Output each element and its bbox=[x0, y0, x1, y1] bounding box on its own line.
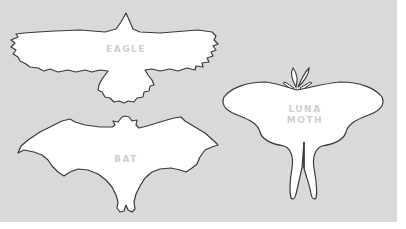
eagle-label: EAGLE bbox=[104, 44, 148, 55]
moth-antenna-left bbox=[292, 68, 297, 87]
luna-moth-label-line2: MOTH bbox=[285, 115, 325, 126]
luna-moth-silhouette bbox=[223, 82, 383, 199]
diagram-canvas: EAGLE BAT LUNA MOTH bbox=[0, 0, 397, 222]
silhouettes-svg bbox=[0, 0, 397, 222]
luna-moth-label-line1: LUNA bbox=[285, 104, 325, 115]
eagle-silhouette bbox=[11, 13, 218, 103]
bat-label: BAT bbox=[106, 154, 146, 165]
